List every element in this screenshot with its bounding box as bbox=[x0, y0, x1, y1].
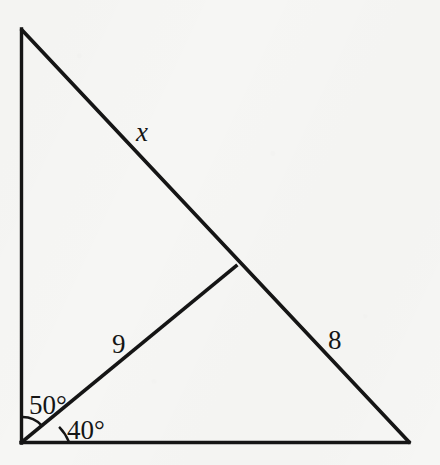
side-label-8: 8 bbox=[328, 327, 342, 354]
angle-label-40: 40° bbox=[67, 417, 105, 444]
geometry-figure: x 9 8 50° 40° bbox=[0, 0, 440, 465]
side-label-x: x bbox=[136, 119, 148, 146]
side-label-9: 9 bbox=[112, 331, 126, 358]
angle-label-50: 50° bbox=[29, 392, 67, 419]
hypotenuse bbox=[22, 30, 409, 442]
